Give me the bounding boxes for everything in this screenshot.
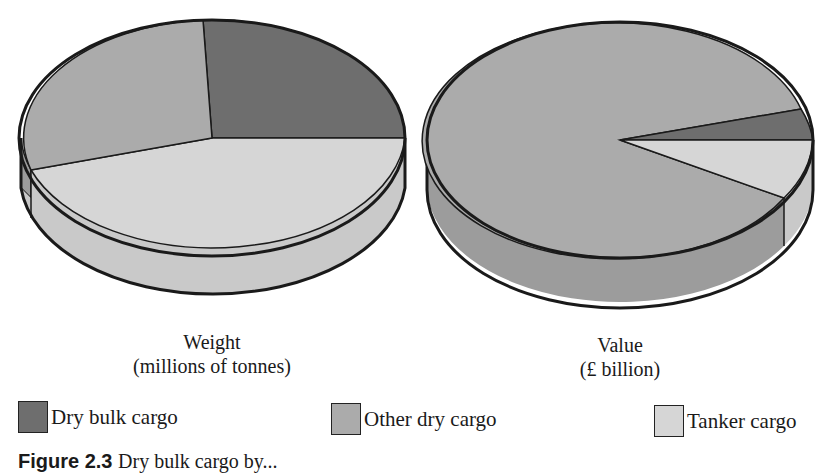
figure-caption-text: Dry bulk cargo by... xyxy=(118,450,277,472)
weight-pie-title: Weight xyxy=(62,330,362,354)
value-pie-label: Value (£ billion) xyxy=(470,333,770,381)
legend-label: Tanker cargo xyxy=(687,409,797,434)
weight-pie-label: Weight (millions of tonnes) xyxy=(62,330,362,378)
weight-pie-subtitle: (millions of tonnes) xyxy=(62,354,362,378)
weight-pie xyxy=(19,20,405,294)
value-pie-subtitle: (£ billion) xyxy=(470,357,770,381)
tanker-swatch-icon xyxy=(654,405,684,437)
dry-bulk-swatch-icon xyxy=(18,401,48,433)
figure-number: Figure 2.3 xyxy=(18,450,112,472)
weight-slice-dry-bulk xyxy=(203,20,405,138)
value-pie-title: Value xyxy=(470,333,770,357)
other-dry-swatch-icon xyxy=(331,403,361,435)
figure-caption: Figure 2.3 Dry bulk cargo by... xyxy=(18,450,277,473)
legend-label: Dry bulk cargo xyxy=(51,405,178,430)
legend-item-dry-bulk: Dry bulk cargo xyxy=(18,401,178,433)
legend-item-tanker: Tanker cargo xyxy=(654,405,797,437)
value-pie xyxy=(422,22,813,308)
legend-label: Other dry cargo xyxy=(364,407,497,432)
legend-item-other-dry: Other dry cargo xyxy=(331,403,497,435)
